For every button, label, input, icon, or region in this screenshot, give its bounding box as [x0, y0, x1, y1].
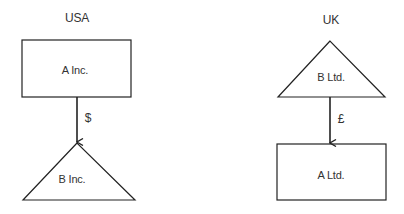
b-inc-triangle — [23, 143, 135, 200]
entity-label-b-ltd: B Ltd. — [317, 71, 345, 83]
currency-label-pound: £ — [338, 112, 344, 126]
b-ltd-triangle — [278, 41, 385, 97]
entity-label-a-ltd: A Ltd. — [318, 169, 345, 181]
entity-label-b-inc: B Inc. — [59, 173, 86, 185]
entity-label-a-inc: A Inc. — [62, 64, 88, 76]
country-label-uk: UK — [323, 13, 339, 27]
currency-label-dollar: $ — [85, 111, 91, 125]
country-label-usa: USA — [65, 11, 89, 25]
